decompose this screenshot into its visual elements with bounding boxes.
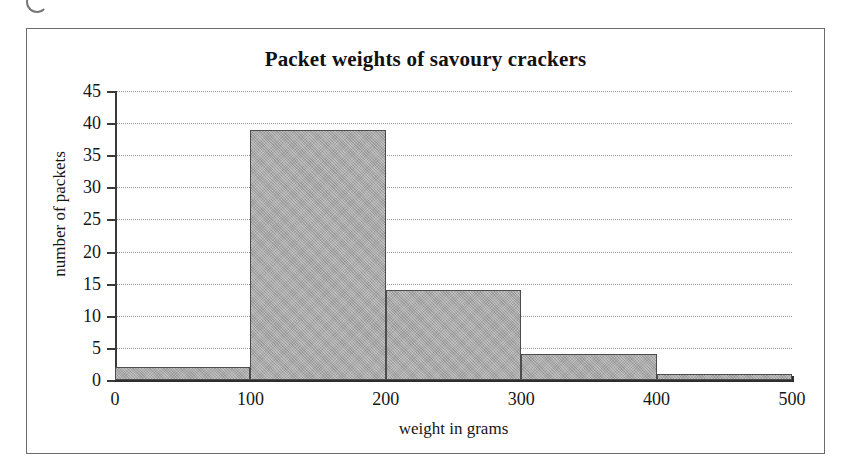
y-axis-tick	[107, 252, 116, 254]
chart-plot-wrapper: number of packets 0510152025303540450100…	[27, 29, 826, 455]
y-gridline	[115, 219, 792, 220]
y-axis-tick-label: 40	[83, 113, 101, 134]
y-axis-tick-label: 10	[83, 305, 101, 326]
y-axis-tick	[107, 155, 116, 157]
x-axis-tick-label: 300	[508, 389, 535, 410]
scan-artifact-glyph	[26, 0, 48, 13]
histogram-bar	[115, 367, 250, 380]
y-gridline	[115, 187, 792, 188]
histogram-bar	[250, 130, 385, 380]
y-axis-line	[115, 91, 117, 380]
y-gridline	[115, 252, 792, 253]
y-axis-tick	[107, 187, 116, 189]
y-axis-tick-label: 15	[83, 273, 101, 294]
y-axis-tick	[107, 219, 116, 221]
figure-frame: Packet weights of savoury crackers numbe…	[26, 28, 825, 454]
y-axis-title: number of packets	[50, 99, 70, 329]
y-axis-tick-label: 35	[83, 145, 101, 166]
x-axis-tick-label: 500	[779, 389, 806, 410]
histogram-bar	[386, 290, 521, 380]
y-gridline	[115, 155, 792, 156]
y-axis-tick-label: 45	[83, 81, 101, 102]
y-axis-tick-label: 0	[92, 370, 101, 391]
histogram-bar	[657, 374, 792, 380]
x-axis-tick-label: 400	[643, 389, 670, 410]
x-axis-title: weight in grams	[115, 419, 792, 439]
y-axis-tick	[107, 316, 116, 318]
y-gridline	[115, 91, 792, 92]
y-axis-tick	[107, 123, 116, 125]
y-gridline	[115, 123, 792, 124]
x-axis-tick-label: 200	[372, 389, 399, 410]
y-axis-tick-label: 25	[83, 209, 101, 230]
y-axis-tick-label: 20	[83, 241, 101, 262]
y-axis-tick	[107, 348, 116, 350]
x-axis-tick-label: 0	[111, 389, 120, 410]
y-axis-tick-label: 30	[83, 177, 101, 198]
y-axis-tick-label: 5	[92, 337, 101, 358]
y-axis-tick	[107, 91, 116, 93]
x-axis-tick	[792, 376, 794, 382]
y-gridline	[115, 284, 792, 285]
histogram-bar	[521, 354, 656, 380]
y-axis-tick	[107, 284, 116, 286]
x-axis-tick-label: 100	[237, 389, 264, 410]
plot-area: 0510152025303540450100200300400500	[115, 91, 792, 380]
